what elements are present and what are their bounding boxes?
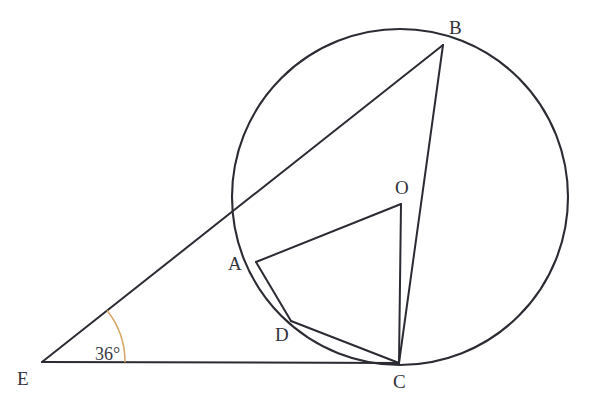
point-label-e: E [17,368,29,389]
point-label-c: C [393,371,406,392]
point-label-b: B [449,17,462,38]
geometry-canvas: A B C D E O 36° [0,0,589,403]
point-label-o: O [395,177,409,198]
segment-o-to-c [399,204,401,363]
segment-a-to-o [256,204,401,262]
angle-measure-label: 36° [95,344,120,364]
point-label-a: A [228,253,242,274]
segment-b-to-c [399,45,443,363]
segment-e-to-b [42,45,443,362]
geometry-figure: A B C D E O 36° [0,0,589,403]
point-label-d: D [275,324,289,345]
